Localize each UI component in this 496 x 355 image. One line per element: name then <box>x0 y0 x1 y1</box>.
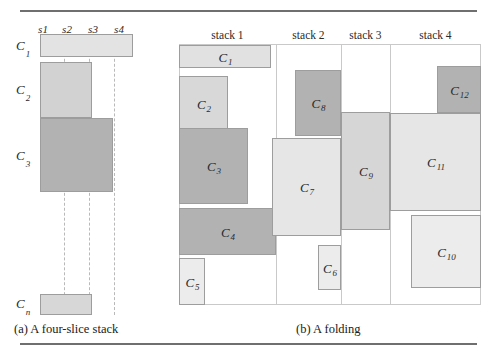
folding-block-c11-label: C11 <box>391 156 480 169</box>
folding-block-c5-label: C5 <box>180 275 204 288</box>
folding-block-c12: C12 <box>437 66 481 113</box>
figure-top-rule <box>20 10 477 12</box>
folding-block-c3: C3 <box>179 128 248 204</box>
folding-block-c5: C5 <box>179 258 205 305</box>
stack-row-label-c2-text: C <box>16 82 25 97</box>
folding-block-c2-label: C2 <box>180 97 227 110</box>
folding-block-c7: C7 <box>272 138 341 236</box>
stack-row-label-cn-sub: n <box>26 307 31 317</box>
folding-block-c7-label: C7 <box>273 181 340 194</box>
column-header-stack-1: stack 1 <box>179 29 276 41</box>
folding-block-c6-label: C6 <box>319 261 340 274</box>
folding-block-c9: C9 <box>341 112 390 230</box>
caption-a: (a) A four-slice stack <box>14 322 118 337</box>
folding-block-c10: C10 <box>411 215 481 288</box>
folding-block-c3-label: C3 <box>180 160 247 173</box>
folding-block-c8: C8 <box>295 70 341 136</box>
folding-block-c10-label: C10 <box>412 245 480 258</box>
stack-row-label-c3: C3 <box>16 148 29 166</box>
stack-row-label-c2: C2 <box>16 82 29 100</box>
figure-container: s1 s2 s3 s4 C1 C2 C3 Cn (a) A four-slice… <box>0 0 496 355</box>
stack-row-label-c3-text: C <box>16 148 25 163</box>
stack-bar-c1 <box>40 34 133 57</box>
column-header-stack-3: stack 3 <box>341 29 390 41</box>
slice-divider-3 <box>114 34 115 315</box>
folding-block-c2: C2 <box>179 76 228 131</box>
stack-bar-c3 <box>40 118 113 192</box>
stack-row-label-c1-sub: 1 <box>26 49 31 59</box>
folding-block-c8-label: C8 <box>296 97 340 110</box>
stack-row-label-cn: Cn <box>16 296 29 314</box>
folding-block-c4-label: C4 <box>180 225 275 238</box>
figure-bottom-rule <box>20 343 477 345</box>
column-header-stack-2: stack 2 <box>276 29 341 41</box>
stack-row-label-c3-sub: 3 <box>26 159 31 169</box>
stack-bar-c2 <box>40 62 92 118</box>
folding-block-c9-label: C9 <box>342 165 389 178</box>
stack-row-label-cn-text: C <box>16 296 25 311</box>
folding-block-c6: C6 <box>318 245 341 290</box>
stack-bar-cn <box>40 294 92 315</box>
folding-block-c12-label: C12 <box>438 83 480 96</box>
stack-row-label-c2-sub: 2 <box>26 93 31 103</box>
stack-row-label-c1: C1 <box>16 38 29 56</box>
folding-block-c4: C4 <box>179 208 276 255</box>
folding-block-c11: C11 <box>390 113 481 211</box>
stack-row-label-c1-text: C <box>16 38 25 53</box>
caption-b: (b) A folding <box>296 322 361 337</box>
folding-block-c1: C1 <box>179 45 271 68</box>
column-header-stack-4: stack 4 <box>390 29 481 41</box>
folding-block-c1-label: C1 <box>180 50 270 63</box>
